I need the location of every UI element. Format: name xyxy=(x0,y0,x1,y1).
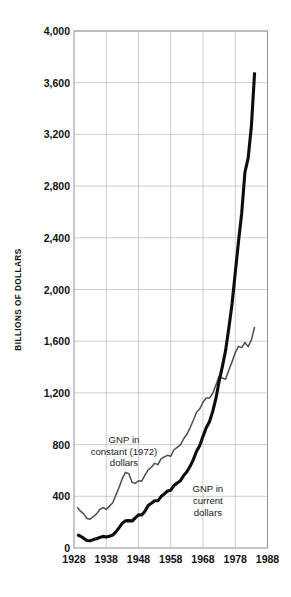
current-dollars-label: GNP incurrentdollars xyxy=(192,483,223,518)
x-tick-label: 1968 xyxy=(191,553,214,565)
x-tick-label: 1948 xyxy=(127,553,150,565)
annotation-line: GNP in xyxy=(192,483,223,495)
x-axis-tick-labels: 1928193819481958196819781988 xyxy=(0,0,291,597)
x-tick-label: 1978 xyxy=(224,553,247,565)
x-tick-label: 1938 xyxy=(95,553,118,565)
annotation-line: dollars xyxy=(192,507,223,519)
annotation-line: current xyxy=(192,495,223,507)
gnp-line-chart: BILLIONS OF DOLLARS 04008001,2001,6002,0… xyxy=(0,0,291,597)
annotation-line: dollars xyxy=(91,457,158,469)
annotation-line: constant (1972) xyxy=(91,446,158,458)
x-tick-label: 1928 xyxy=(62,553,85,565)
x-tick-label: 1988 xyxy=(256,553,279,565)
annotation-line: GNP in xyxy=(91,434,158,446)
constant-dollars-label: GNP inconstant (1972)dollars xyxy=(91,434,158,469)
x-tick-label: 1958 xyxy=(159,553,182,565)
